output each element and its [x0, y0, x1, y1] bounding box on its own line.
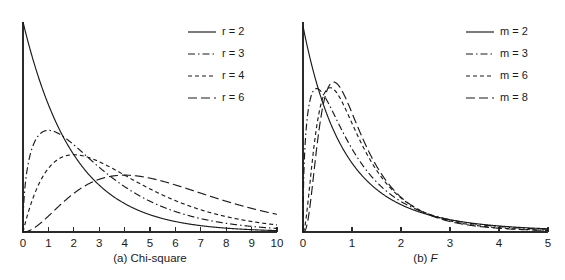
curve-b-m8: [303, 82, 548, 232]
figure-canvas: 012345678910(a) Chi-square012345(b) Fr =…: [0, 0, 565, 280]
legend-label-b-0: m = 2: [500, 25, 528, 37]
curve-a-r6: [23, 175, 277, 232]
x-tick-label-b-4: 4: [496, 237, 503, 249]
x-tick-label-a-1: 1: [45, 237, 51, 249]
legend-a: r = 2r = 3r = 4r = 6: [188, 25, 244, 103]
curve-b-m3: [303, 89, 548, 232]
x-tick-label-b-1: 1: [349, 237, 355, 249]
x-tick-label-b-3: 3: [447, 237, 453, 249]
curve-a-r3: [23, 130, 277, 232]
x-tick-label-a-0: 0: [20, 237, 26, 249]
caption-italic-b: F: [431, 252, 439, 264]
x-tick-label-b-2: 2: [398, 237, 404, 249]
caption-prefix-a: (a): [113, 252, 130, 264]
legend-label-a-2: r = 4: [222, 69, 244, 81]
x-tick-label-a-4: 4: [121, 237, 128, 249]
x-tick-label-a-2: 2: [71, 237, 77, 249]
x-tick-label-a-6: 6: [172, 237, 178, 249]
legend-b: m = 2m = 3m = 6m = 8: [466, 25, 528, 103]
curve-a-r4: [23, 155, 277, 232]
legend-label-b-1: m = 3: [500, 47, 528, 59]
caption-name-a: Chi-square: [131, 252, 187, 264]
caption-b: (b) F: [413, 252, 438, 264]
x-tick-label-b-0: 0: [300, 237, 306, 249]
legend-label-a-3: r = 6: [222, 91, 244, 103]
legend-label-a-1: r = 3: [222, 47, 244, 59]
caption-prefix-b: (b): [413, 252, 430, 264]
figure-chi-square-and-f: 012345678910(a) Chi-square012345(b) Fr =…: [0, 0, 565, 280]
x-tick-label-a-9: 9: [248, 237, 254, 249]
x-tick-label-a-5: 5: [147, 237, 153, 249]
legend-label-b-2: m = 6: [500, 69, 528, 81]
x-tick-label-a-10: 10: [271, 237, 284, 249]
x-tick-label-a-7: 7: [198, 237, 204, 249]
caption-a: (a) Chi-square: [113, 252, 187, 264]
x-axis-ticks-b: 012345: [300, 227, 551, 249]
legend-label-a-0: r = 2: [222, 25, 244, 37]
x-axis-ticks-a: 012345678910: [20, 227, 284, 249]
x-tick-label-b-5: 5: [545, 237, 551, 249]
x-tick-label-a-3: 3: [96, 237, 102, 249]
x-tick-label-a-8: 8: [223, 237, 229, 249]
legend-label-b-3: m = 8: [500, 91, 528, 103]
curve-b-m6: [303, 88, 548, 232]
